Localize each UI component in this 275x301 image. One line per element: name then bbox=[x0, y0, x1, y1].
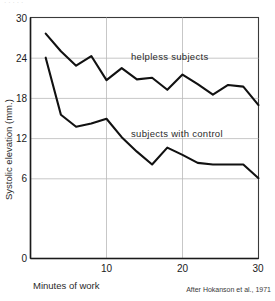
chart-figure: · · · · · 30 24 18 12 6 0 10 20 30 Minut… bbox=[0, 0, 275, 301]
annotation-subjects-with-control: subjects with control bbox=[131, 128, 223, 139]
y-axis-title: Systolic elevation (mm.) bbox=[3, 99, 14, 200]
cropped-top-text: · · · · · bbox=[4, 0, 23, 6]
series-line-subjects-with-control bbox=[46, 58, 259, 179]
y-tick-labels: 30 24 18 12 6 0 bbox=[16, 13, 28, 265]
x-tick-10: 10 bbox=[101, 263, 113, 274]
y-tick-24: 24 bbox=[16, 53, 28, 64]
x-axis-title: Minutes of work bbox=[33, 280, 100, 291]
y-tick-18: 18 bbox=[16, 93, 28, 104]
y-tick-0: 0 bbox=[21, 253, 27, 264]
x-tick-labels: 10 20 30 bbox=[101, 263, 264, 274]
x-tick-20: 20 bbox=[177, 263, 189, 274]
y-tick-30: 30 bbox=[16, 13, 28, 24]
source-credit: After Hokanson et al., 1971 bbox=[186, 286, 271, 293]
y-tick-12: 12 bbox=[16, 133, 28, 144]
y-tick-6: 6 bbox=[21, 173, 27, 184]
x-tick-30: 30 bbox=[252, 263, 264, 274]
series-line-helpless-subjects bbox=[46, 34, 259, 105]
annotation-helpless-subjects: helpless subjects bbox=[131, 51, 208, 62]
